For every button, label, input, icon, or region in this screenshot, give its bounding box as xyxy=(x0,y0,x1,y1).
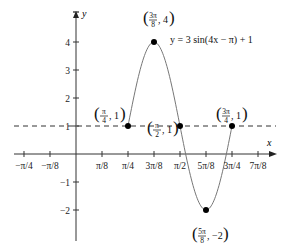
frac-num: 5π xyxy=(198,227,206,236)
point-y-value: , 4 xyxy=(158,14,168,25)
x-tick-label: −π/8 xyxy=(41,161,59,171)
y-tick-label: −1 xyxy=(60,178,70,188)
open-paren: ( xyxy=(216,104,222,123)
x-tick-label: 3π/8 xyxy=(146,161,163,171)
frac-num: π xyxy=(155,121,159,130)
key-point-label: (3π8, 4) xyxy=(143,8,175,29)
close-paren: ) xyxy=(242,104,248,123)
frac-num: π xyxy=(102,107,106,116)
key-point-label: (3π4, 1) xyxy=(216,104,248,125)
y-tick-label: 1 xyxy=(65,122,70,132)
x-tick-label: −π/4 xyxy=(15,161,33,171)
x-tick-label: π/8 xyxy=(96,161,108,171)
point-y-value: , −2 xyxy=(207,230,223,241)
y-axis-label: y xyxy=(81,8,87,19)
frac-den: 8 xyxy=(151,20,155,29)
key-point-dot xyxy=(203,207,209,213)
x-arrow-icon xyxy=(269,151,277,157)
point-y-value: , 1 xyxy=(109,110,119,121)
open-paren: ( xyxy=(94,104,100,123)
x-axis-label: x xyxy=(266,137,272,148)
close-paren: ) xyxy=(120,104,126,123)
point-y-value: , 1 xyxy=(162,124,172,135)
open-paren: ( xyxy=(147,118,153,137)
frac-num: 3π xyxy=(149,11,157,20)
key-point-dot xyxy=(125,123,131,129)
key-point-label: (π2, 1) xyxy=(147,118,179,139)
sine-graph: (π4, 1)(3π8, 4)(π2, 1)(5π8, −2)(3π4, 1) … xyxy=(0,0,284,252)
y-tick-label: 2 xyxy=(65,94,70,104)
x-tick-label: 5π/8 xyxy=(198,161,215,171)
frac-den: 8 xyxy=(200,236,204,245)
y-tick-label: −2 xyxy=(60,206,70,216)
x-tick-label: 3π/4 xyxy=(224,161,241,171)
x-tick-label: π/2 xyxy=(174,161,186,171)
y-tick-label: 4 xyxy=(65,38,70,48)
frac-num: 3π xyxy=(222,107,230,116)
frac-den: 2 xyxy=(155,130,159,139)
close-paren: ) xyxy=(173,118,179,137)
x-tick-label: 7π/8 xyxy=(250,161,267,171)
key-point-dot xyxy=(151,39,157,45)
key-point-dot xyxy=(229,123,235,129)
equation-label: y = 3 sin(4x − π) + 1 xyxy=(170,34,253,46)
key-point-label: (5π8, −2) xyxy=(192,224,229,245)
y-tick-label: 3 xyxy=(65,66,70,76)
key-point-label: (π4, 1) xyxy=(94,104,126,125)
open-paren: ( xyxy=(143,8,149,27)
x-tick-label: π/4 xyxy=(122,161,134,171)
frac-den: 4 xyxy=(224,116,228,125)
open-paren: ( xyxy=(192,224,198,243)
close-paren: ) xyxy=(169,8,175,27)
frac-den: 4 xyxy=(102,116,106,125)
close-paren: ) xyxy=(223,224,229,243)
point-y-value: , 1 xyxy=(231,110,241,121)
